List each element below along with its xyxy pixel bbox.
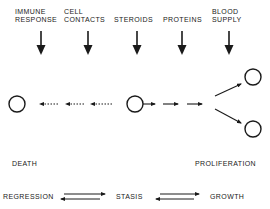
down-arrow-icon (225, 31, 234, 55)
state-growth-label: GROWTH (210, 193, 244, 201)
outcome-proliferation-label: PROLIFERATION (195, 160, 256, 168)
state-regression-label: REGRESSION (3, 193, 54, 201)
down-arrow-icon (133, 31, 142, 55)
state-stasis-label: STASIS (116, 193, 143, 201)
outcome-death-label: DEATH (12, 160, 37, 168)
arrow-down-right-icon (215, 109, 241, 123)
steroid-cell-circle (127, 96, 143, 112)
dead-cell-circle (9, 96, 25, 112)
arrow-up-right-icon (215, 84, 241, 96)
daughter-cell-bottom-circle (245, 121, 261, 137)
equilibrium-arrows-regression-stasis-icon (61, 194, 105, 199)
down-arrow-icon (84, 31, 93, 55)
equilibrium-arrows-stasis-growth-icon (156, 194, 199, 199)
daughter-cell-top-circle (245, 69, 261, 85)
down-arrow-icon (37, 31, 46, 55)
diagram-canvas (0, 0, 270, 209)
down-arrow-icon (178, 31, 187, 55)
